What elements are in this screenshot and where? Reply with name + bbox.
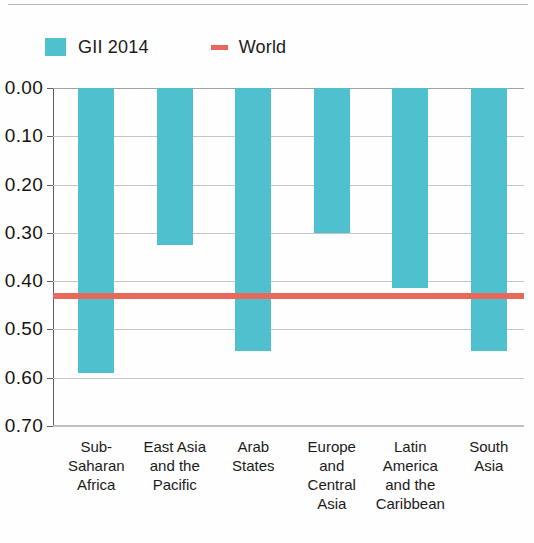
legend-item-gii-2014: GII 2014: [45, 37, 149, 58]
x-axis-label-line: Pacific: [136, 475, 215, 494]
y-axis-tick: [47, 88, 53, 89]
world-reference-line: [53, 293, 524, 299]
y-axis-tick-label: 0.10: [5, 125, 43, 147]
line-swatch-icon: [211, 45, 228, 50]
chart-figure: GII 2014 World 0.000.100.200.300.400.500…: [0, 0, 534, 543]
bar: [392, 88, 428, 288]
gridline: [53, 378, 524, 379]
x-axis-label: East Asiaand thePacific: [136, 437, 215, 494]
x-axis-category-labels: Sub-SaharanAfricaEast Asiaand thePacific…: [53, 437, 524, 537]
gridline: [53, 136, 524, 137]
y-axis-tick: [47, 185, 53, 186]
x-axis-label: ArabStates: [214, 437, 293, 475]
x-axis-label-line: Asia: [450, 456, 529, 475]
x-axis-label-line: Central: [293, 475, 372, 494]
x-axis-label-line: and: [293, 456, 372, 475]
x-axis-label-line: Sub-Saharan: [57, 437, 136, 475]
chart-legend: GII 2014 World: [45, 33, 286, 61]
gridline: [53, 329, 524, 330]
bar: [235, 88, 271, 351]
y-axis-tick-label: 0.20: [5, 174, 43, 196]
x-axis-label-line: and the: [136, 456, 215, 475]
y-axis-tick-label: 0.70: [5, 415, 43, 437]
x-axis-label: Sub-SaharanAfrica: [57, 437, 136, 494]
page-top-rule: [8, 4, 528, 5]
x-axis-label: LatinAmericaand theCaribbean: [371, 437, 450, 513]
x-axis-label-line: Latin: [371, 437, 450, 456]
y-axis-tick: [47, 378, 53, 379]
y-axis-tick: [47, 233, 53, 234]
x-axis-label-line: Asia: [293, 494, 372, 513]
y-axis-tick-label: 0.30: [5, 222, 43, 244]
legend-item-world: World: [211, 37, 287, 58]
y-axis-tick-label: 0.40: [5, 270, 43, 292]
gridline: [53, 233, 524, 234]
bar: [78, 88, 114, 373]
bar: [157, 88, 193, 245]
x-axis-label-line: Caribbean: [371, 494, 450, 513]
y-axis-tick: [47, 426, 53, 427]
plot-area: 0.000.100.200.300.400.500.600.70: [53, 88, 524, 426]
gridline: [53, 426, 524, 427]
gridline: [53, 281, 524, 282]
x-axis-label: EuropeandCentralAsia: [293, 437, 372, 513]
y-axis-tick-label: 0.00: [5, 77, 43, 99]
bar: [471, 88, 507, 351]
bar-swatch-icon: [45, 38, 66, 56]
legend-label-world: World: [239, 37, 287, 58]
y-axis-tick-label: 0.50: [5, 318, 43, 340]
x-axis-label-line: Arab: [214, 437, 293, 456]
x-axis-label-line: Europe: [293, 437, 372, 456]
x-axis-label: SouthAsia: [450, 437, 529, 475]
x-axis-label-line: Africa: [57, 475, 136, 494]
y-axis-tick-label: 0.60: [5, 367, 43, 389]
x-axis-label-line: East Asia: [136, 437, 215, 456]
x-axis-label-line: America: [371, 456, 450, 475]
gridline: [53, 185, 524, 186]
x-axis-label-line: South: [450, 437, 529, 456]
plot-frame: [53, 88, 524, 426]
x-axis-label-line: States: [214, 456, 293, 475]
gridline: [53, 88, 524, 89]
bar: [314, 88, 350, 233]
y-axis-tick: [47, 136, 53, 137]
legend-label-gii-2014: GII 2014: [78, 37, 149, 58]
x-axis-label-line: and the: [371, 475, 450, 494]
y-axis-tick: [47, 281, 53, 282]
y-axis-tick: [47, 329, 53, 330]
